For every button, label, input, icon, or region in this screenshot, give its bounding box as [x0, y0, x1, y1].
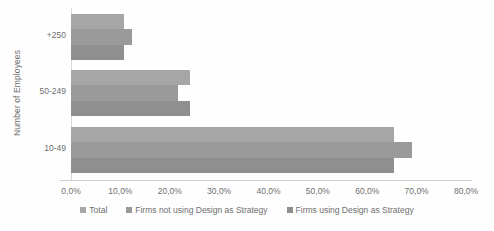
bar-plus250-not-using	[71, 29, 132, 44]
legend-item-2[interactable]: Firms using Design as Strategy	[287, 205, 414, 215]
x-tick-label-8: 80,0%	[454, 186, 478, 196]
y-tick-label-0: +250	[6, 30, 66, 40]
y-tick-label-1: 50-249	[6, 86, 66, 96]
bar-50-249-using	[71, 101, 190, 116]
bar-10-49-not-using	[71, 142, 412, 157]
legend-swatch-icon-2	[287, 207, 293, 213]
x-tick-label-6: 60,0%	[355, 186, 379, 196]
legend-label-2: Firms using Design as Strategy	[296, 205, 414, 215]
y-tick-label-2: 10-49	[6, 143, 66, 153]
legend-label-0: Total	[89, 205, 107, 215]
x-axis-line	[60, 180, 472, 181]
legend-item-0[interactable]: Total	[80, 205, 107, 215]
x-tick-label-4: 40,0%	[256, 186, 280, 196]
bar-10-49-total	[71, 127, 394, 142]
bar-group-plus250	[71, 14, 466, 60]
bar-10-49-using	[71, 158, 394, 173]
bar-group-10-49	[71, 127, 466, 173]
bar-plus250-using	[71, 45, 124, 60]
x-tick-label-5: 50,0%	[306, 186, 330, 196]
x-tick-label-3: 30,0%	[207, 186, 231, 196]
x-tick-label-1: 10,0%	[108, 186, 132, 196]
legend-swatch-icon-0	[80, 207, 86, 213]
legend-swatch-icon-1	[126, 207, 132, 213]
x-tick-label-2: 20,0%	[158, 186, 182, 196]
x-tick-label-7: 70,0%	[405, 186, 429, 196]
legend-label-1: Firms not using Design as Strategy	[135, 205, 267, 215]
bar-50-249-not-using	[71, 85, 178, 100]
y-axis-tick-labels: +250 50-249 10-49	[0, 8, 66, 180]
x-tick-label-0: 0,0%	[61, 186, 80, 196]
bar-chart: Number of Employees +250 50-249 10-49 0,…	[0, 0, 494, 231]
bar-plus250-total	[71, 14, 124, 29]
x-axis-tick-labels: 0,0%10,0%20,0%30,0%40,0%50,0%60,0%70,0%8…	[0, 186, 494, 200]
bar-group-50-249	[71, 70, 466, 116]
bar-50-249-total	[71, 70, 190, 85]
chart-legend: TotalFirms not using Design as StrategyF…	[0, 205, 494, 215]
plot-area	[71, 8, 466, 180]
legend-item-1[interactable]: Firms not using Design as Strategy	[126, 205, 267, 215]
